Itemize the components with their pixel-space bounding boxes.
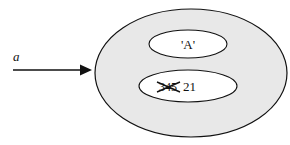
object-diagram: a 'A' 345 21 [0,0,290,145]
reference-arrow [13,65,92,76]
field-char-value: 'A' [181,37,195,52]
new-value-text: 21 [183,79,196,94]
variable-label: a [13,49,20,64]
arrowhead-icon [80,65,92,76]
old-value-struck: 345 [157,80,180,94]
